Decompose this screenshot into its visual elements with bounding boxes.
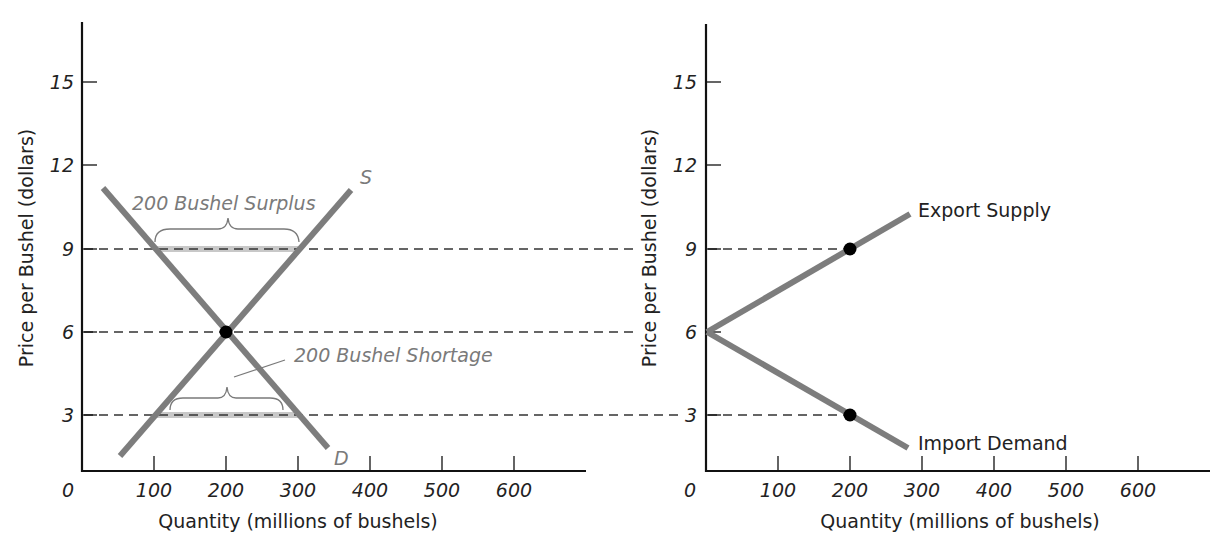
export-supply-curve xyxy=(707,214,910,332)
left-x-axis-title: Quantity (millions of bushels) xyxy=(158,510,437,532)
y-tick-label: 3 xyxy=(62,404,74,426)
left-y-axis-title: Price per Bushel (dollars) xyxy=(15,129,37,367)
x-tick-label: 400 xyxy=(976,479,1012,501)
x-tick-label: 300 xyxy=(904,479,940,501)
x-tick-label: 0 xyxy=(684,479,696,501)
right-y-axis-title: Price per Bushel (dollars) xyxy=(638,129,660,367)
equilibrium-point xyxy=(220,326,233,339)
shortage-label: 200 Bushel Shortage xyxy=(294,344,493,366)
y-tick-label: 15 xyxy=(673,71,697,93)
x-tick-label: 100 xyxy=(760,479,796,501)
y-tick-label: 15 xyxy=(50,71,74,93)
export-point xyxy=(844,243,857,256)
right-x-axis-title: Quantity (millions of bushels) xyxy=(820,510,1099,532)
shortage-leader-line xyxy=(234,360,285,377)
demand-label: D xyxy=(334,447,349,469)
left-panel: 15 12 9 6 3 0 100 200 300 400 500 600 Qu… xyxy=(15,22,681,532)
demand-curve xyxy=(103,188,328,448)
x-tick-label: 500 xyxy=(1048,479,1084,501)
y-tick-label: 9 xyxy=(62,238,74,260)
x-tick-label: 600 xyxy=(496,479,532,501)
x-tick-label: 500 xyxy=(424,479,460,501)
x-tick-label: 300 xyxy=(280,479,316,501)
y-tick-label: 6 xyxy=(685,321,697,343)
y-tick-label: 6 xyxy=(62,321,74,343)
export-supply-label: Export Supply xyxy=(918,199,1051,221)
x-tick-label: 400 xyxy=(352,479,388,501)
chart-canvas: 15 12 9 6 3 0 100 200 300 400 500 600 Qu… xyxy=(0,0,1215,538)
supply-label: S xyxy=(360,166,372,188)
import-demand-label: Import Demand xyxy=(918,432,1068,454)
x-tick-label: 200 xyxy=(832,479,868,501)
right-panel: 15 12 9 6 3 0 100 200 300 400 500 600 Qu… xyxy=(638,24,1210,532)
x-tick-label: 200 xyxy=(208,479,244,501)
x-tick-label: 100 xyxy=(136,479,172,501)
x-tick-label: 600 xyxy=(1120,479,1156,501)
import-point xyxy=(844,409,857,422)
surplus-label: 200 Bushel Surplus xyxy=(132,192,316,214)
y-tick-label: 9 xyxy=(685,238,697,260)
x-tick-label: 0 xyxy=(62,479,74,501)
y-tick-label: 3 xyxy=(685,404,697,426)
y-tick-label: 12 xyxy=(673,154,697,176)
import-demand-curve xyxy=(707,332,908,448)
surplus-brace xyxy=(155,218,299,242)
shortage-brace xyxy=(170,387,283,410)
y-tick-label: 12 xyxy=(50,154,74,176)
